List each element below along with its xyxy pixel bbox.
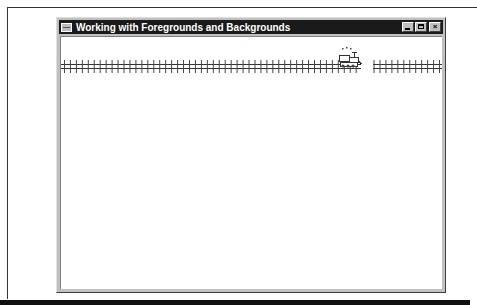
minimize-button[interactable] bbox=[402, 22, 414, 32]
railroad-track bbox=[61, 58, 442, 75]
close-icon: × bbox=[433, 22, 438, 31]
maximize-button[interactable] bbox=[415, 22, 427, 32]
window-title: Working with Foregrounds and Backgrounds bbox=[76, 22, 290, 33]
locomotive-icon bbox=[338, 43, 364, 69]
close-button[interactable]: × bbox=[429, 22, 441, 32]
system-menu-icon[interactable] bbox=[61, 23, 72, 32]
title-buttons: × bbox=[401, 22, 441, 32]
app-window: Working with Foregrounds and Backgrounds… bbox=[56, 17, 446, 293]
maximize-icon bbox=[418, 24, 424, 29]
bottom-rule bbox=[0, 300, 470, 305]
minimize-icon bbox=[405, 28, 410, 30]
client-area[interactable] bbox=[60, 36, 442, 289]
title-bar[interactable]: Working with Foregrounds and Backgrounds… bbox=[59, 20, 443, 34]
